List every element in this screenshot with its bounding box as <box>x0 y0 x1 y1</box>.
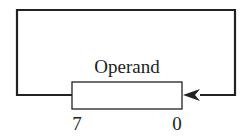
arrowhead-icon <box>183 89 200 101</box>
bit-high-label: 7 <box>72 113 82 134</box>
rotate-diagram: Operand 7 0 <box>0 0 250 139</box>
register-label: Operand <box>94 56 160 77</box>
bit-low-label: 0 <box>172 113 182 134</box>
operand-register-box <box>72 82 182 109</box>
